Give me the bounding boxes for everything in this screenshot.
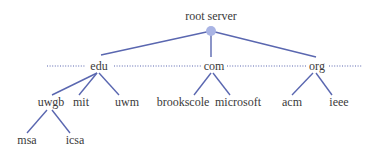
node-label-brookscole: brookscole	[157, 95, 210, 109]
edge-edu-mit	[79, 73, 97, 95]
node-label-edu: edu	[90, 59, 107, 73]
edge-com-brookscole	[194, 73, 211, 95]
root-node-circle	[206, 26, 216, 36]
edge-edu-uwgb	[52, 73, 97, 95]
node-label-microsoft: microsoft	[215, 95, 262, 109]
node-label-icsa: icsa	[66, 133, 85, 147]
edge-com-microsoft	[213, 73, 230, 95]
node-label-com: com	[204, 59, 225, 73]
dns-tree-diagram: root server edu com org uwgb mit uwm bro…	[0, 0, 382, 154]
edge-org-acm	[292, 73, 313, 95]
node-label-uwgb: uwgb	[38, 95, 65, 109]
edge-uwgb-msa	[27, 110, 47, 133]
node-label-msa: msa	[17, 133, 37, 147]
node-label-mit: mit	[73, 95, 90, 109]
edge-edu-uwm	[99, 73, 119, 95]
node-label-uwm: uwm	[115, 95, 140, 109]
node-label-acm: acm	[282, 95, 303, 109]
diagram-svg: root server edu com org uwgb mit uwm bro…	[0, 0, 382, 154]
node-label-org: org	[309, 59, 325, 73]
edge-org-ieee	[316, 73, 332, 95]
edge-root-org	[211, 31, 316, 57]
node-label-ieee: ieee	[329, 95, 348, 109]
node-label-root: root server	[185, 9, 237, 23]
edge-uwgb-icsa	[52, 110, 70, 133]
edge-root-edu	[101, 31, 211, 55]
